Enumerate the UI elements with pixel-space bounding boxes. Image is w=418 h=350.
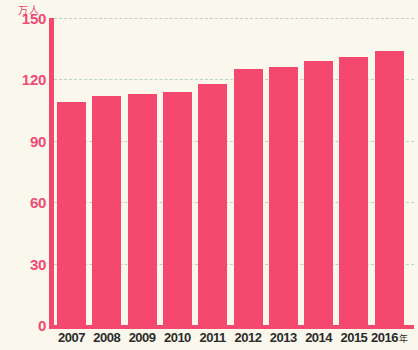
x-axis-tick-labels: 2007200820092010201120122013201420152016… bbox=[57, 330, 410, 350]
y-tick-label-30: 30 bbox=[4, 255, 46, 272]
y-axis-line bbox=[49, 18, 54, 328]
bar-2013 bbox=[269, 67, 298, 325]
bar-2014 bbox=[304, 61, 333, 325]
bar-2009 bbox=[128, 94, 157, 325]
bar-2007 bbox=[57, 102, 86, 325]
y-tick-label-150: 150 bbox=[4, 10, 46, 27]
y-tick-label-0: 0 bbox=[4, 317, 46, 334]
y-tick-label-60: 60 bbox=[4, 194, 46, 211]
y-tick-label-90: 90 bbox=[4, 132, 46, 149]
x-axis-unit-label: 年 bbox=[399, 334, 408, 344]
bar-chart: 万人 0306090120150 20072008200920102011201… bbox=[0, 0, 418, 350]
bar-2015 bbox=[339, 57, 368, 325]
bar-2016 bbox=[375, 51, 404, 325]
y-tick-label-120: 120 bbox=[4, 71, 46, 88]
x-axis-line bbox=[49, 325, 414, 329]
bar-2012 bbox=[234, 69, 263, 325]
bar-2011 bbox=[198, 84, 227, 326]
x-tick-label-2016: 2016年 bbox=[366, 330, 412, 345]
plot-area bbox=[57, 18, 410, 325]
bar-2010 bbox=[163, 92, 192, 325]
bar-2008 bbox=[92, 96, 121, 325]
